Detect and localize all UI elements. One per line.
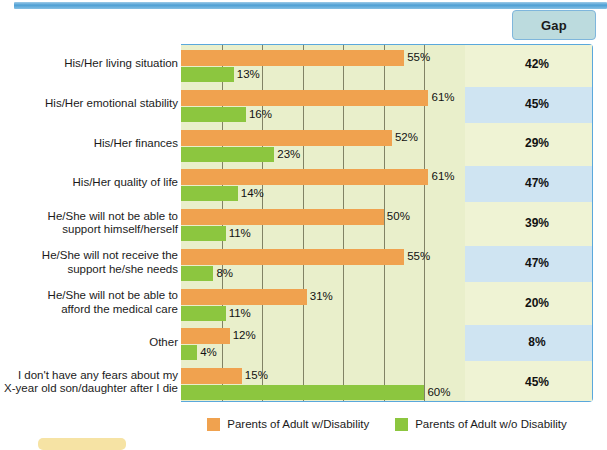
legend-item: Parents of Adult w/o Disability: [395, 418, 567, 431]
bar-value-label: 55%: [407, 250, 430, 262]
chart-frame: 55%13%61%16%52%23%61%14%50%11%55%8%31%11…: [181, 44, 593, 402]
bar-value-label: 15%: [245, 369, 268, 381]
bar-green: [181, 385, 424, 400]
bar-green: [181, 107, 246, 122]
top-divider-rule: [14, 2, 607, 9]
gap-value: 42%: [482, 57, 592, 71]
bar-orange: [181, 249, 404, 265]
bar-orange: [181, 50, 404, 66]
gap-value: 47%: [482, 256, 592, 270]
category-label-line: support he/she needs: [2, 263, 178, 277]
bar-value-label: 61%: [431, 170, 454, 182]
category-label: I don't have any fears about myX-year ol…: [2, 369, 178, 396]
bar-orange: [181, 90, 428, 106]
legend-label: Parents of Adult w/o Disability: [415, 418, 567, 430]
chart-legend: Parents of Adult w/DisabilityParents of …: [181, 414, 593, 434]
gap-value: 45%: [482, 375, 592, 389]
bar-value-label: 12%: [233, 329, 256, 341]
gap-value: 29%: [482, 136, 592, 150]
category-label: Other: [2, 336, 178, 350]
bar-orange: [181, 368, 242, 384]
bar-value-label: 23%: [277, 148, 300, 160]
category-label: He/She will not be able tosupport himsel…: [2, 210, 178, 237]
bar-green: [181, 345, 197, 360]
green-swatch: [395, 418, 408, 431]
category-label: His/Her living situation: [2, 57, 178, 71]
category-label: He/She will not receive thesupport he/sh…: [2, 249, 178, 276]
bar-value-label: 60%: [427, 386, 450, 398]
category-label-line: X-year old son/daughter after I die: [2, 382, 178, 396]
bar-value-label: 11%: [229, 307, 251, 319]
category-label-column: His/Her living situationHis/Her emotiona…: [0, 44, 178, 402]
bottom-decorative-chip: [38, 438, 126, 450]
gap-value: 47%: [482, 176, 592, 190]
gap-value: 8%: [482, 335, 592, 349]
bar-value-label: 11%: [229, 227, 251, 239]
category-label: His/Her finances: [2, 137, 178, 151]
bar-value-label: 13%: [237, 68, 260, 80]
bar-value-label: 61%: [431, 91, 454, 103]
gap-value: 39%: [482, 216, 592, 230]
gap-column-header: Gap: [512, 10, 596, 40]
bar-value-label: 16%: [249, 108, 272, 120]
category-label-line: He/She will not be able to: [2, 289, 178, 303]
bar-value-label: 52%: [395, 131, 418, 143]
bar-orange: [181, 328, 230, 344]
gap-value: 20%: [482, 296, 592, 310]
category-label-line: Other: [2, 336, 178, 350]
category-label-line: His/Her finances: [2, 137, 178, 151]
bar-green: [181, 147, 274, 162]
category-label-line: support himself/herself: [2, 223, 178, 237]
bar-value-label: 55%: [407, 51, 430, 63]
bar-value-label: 14%: [241, 187, 264, 199]
legend-label: Parents of Adult w/Disability: [227, 418, 369, 430]
bar-green: [181, 226, 226, 241]
category-label: His/Her quality of life: [2, 176, 178, 190]
bar-orange: [181, 130, 392, 146]
bar-green: [181, 306, 226, 321]
category-label-line: He/She will not receive the: [2, 249, 178, 263]
bar-orange: [181, 169, 428, 185]
category-label: He/She will not be able toafford the med…: [2, 289, 178, 316]
category-label-line: His/Her living situation: [2, 57, 178, 71]
category-label-line: afford the medical care: [2, 303, 178, 317]
bar-orange: [181, 209, 384, 225]
plot-area: 55%13%61%16%52%23%61%14%50%11%55%8%31%11…: [181, 45, 465, 401]
orange-swatch: [207, 418, 220, 431]
gap-header-label: Gap: [541, 18, 567, 33]
bar-value-label: 4%: [200, 346, 217, 358]
category-label: His/Her emotional stability: [2, 97, 178, 111]
category-label-line: He/She will not be able to: [2, 210, 178, 224]
bar-green: [181, 266, 213, 281]
bar-value-label: 50%: [387, 210, 410, 222]
bar-value-label: 8%: [216, 267, 233, 279]
bar-green: [181, 67, 234, 82]
bar-orange: [181, 289, 307, 305]
category-label-line: I don't have any fears about my: [2, 369, 178, 383]
legend-item: Parents of Adult w/Disability: [207, 418, 369, 431]
category-label-line: His/Her emotional stability: [2, 97, 178, 111]
bar-green: [181, 186, 238, 201]
bar-value-label: 31%: [310, 290, 333, 302]
gap-value: 45%: [482, 97, 592, 111]
category-label-line: His/Her quality of life: [2, 176, 178, 190]
